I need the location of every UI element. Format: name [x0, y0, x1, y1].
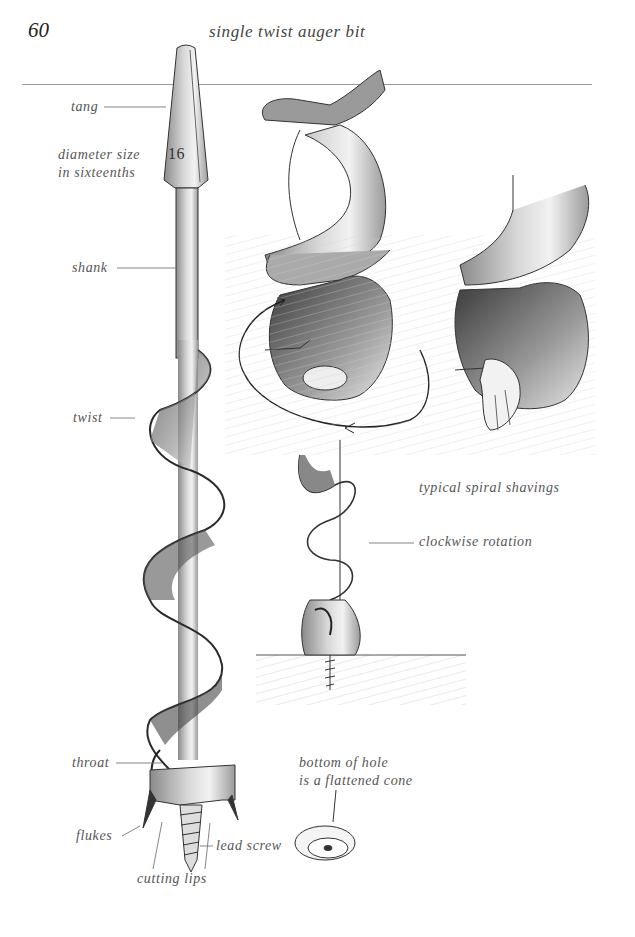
label-hole-line2: is a flattened cone	[299, 772, 413, 790]
label-rotation: clockwise rotation	[419, 533, 532, 551]
size-marking: 16	[168, 145, 185, 163]
hole-bottom-cone	[295, 790, 355, 860]
label-lead-screw: lead screw	[216, 837, 282, 855]
label-tang: tang	[71, 98, 98, 116]
book-page: 60 single twist auger bit	[0, 0, 635, 937]
label-hole-line1: bottom of hole	[299, 754, 388, 772]
label-shank: shank	[72, 259, 108, 277]
label-shavings: typical spiral shavings	[419, 479, 560, 497]
label-throat: throat	[72, 754, 109, 772]
label-flukes: flukes	[76, 827, 112, 845]
label-twist: twist	[73, 409, 102, 427]
lead-screw	[180, 805, 202, 872]
main-auger-bit	[143, 45, 238, 872]
label-diameter-line2: in sixteenths	[58, 164, 135, 182]
label-cutting-lips: cutting lips	[137, 870, 207, 888]
illustrations	[0, 0, 635, 937]
label-diameter-line1: diameter size	[58, 146, 140, 164]
